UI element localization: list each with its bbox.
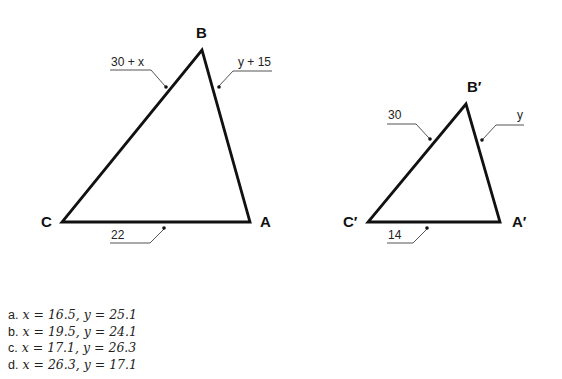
- side-ba-leader: [217, 71, 272, 89]
- choice-x-value: x = 17.1,: [22, 340, 79, 355]
- side-ba-prime-leader: [480, 125, 524, 142]
- vertex-a-prime-label: A′: [512, 213, 527, 230]
- choice-letter: d.: [8, 358, 18, 372]
- side-ca-prime-label: 14: [388, 228, 402, 242]
- choice-letter: c.: [8, 341, 18, 355]
- vertex-b-prime-label: B′: [467, 78, 482, 95]
- choice-c[interactable]: c. x = 17.1, y = 26.3: [8, 340, 137, 357]
- vertex-c-prime-label: C′: [343, 213, 358, 230]
- vertex-a-label: A: [260, 213, 271, 230]
- choice-x-value: x = 16.5,: [22, 307, 79, 322]
- choice-x-value: x = 26.3,: [22, 357, 79, 372]
- choice-y-value: y = 26.3: [83, 340, 136, 355]
- choice-y-value: y = 24.1: [84, 324, 137, 339]
- answer-choices: a. x = 16.5, y = 25.1 b. x = 19.5, y = 2…: [8, 307, 137, 373]
- choice-letter: b.: [8, 325, 18, 339]
- choice-letter: a.: [8, 308, 18, 322]
- side-ba-prime-label: y: [517, 108, 523, 122]
- large-triangle: B C A 30 + x y + 15 22: [41, 24, 272, 243]
- vertex-c-label: C: [41, 213, 52, 230]
- side-ba-label: y + 15: [238, 55, 271, 69]
- choice-b[interactable]: b. x = 19.5, y = 24.1: [8, 324, 137, 341]
- side-cb-label: 30 + x: [111, 55, 144, 69]
- side-cb-prime-leader: [387, 124, 432, 141]
- small-triangle: B′ C′ A′ 30 y 14: [343, 78, 527, 243]
- choice-y-value: y = 17.1: [84, 357, 137, 372]
- choice-d[interactable]: d. x = 26.3, y = 17.1: [8, 357, 137, 374]
- side-cb-leader: [110, 70, 168, 89]
- side-ca-label: 22: [111, 228, 125, 242]
- choice-a[interactable]: a. x = 16.5, y = 25.1: [8, 307, 137, 324]
- similar-triangles-figure: B C A 30 + x y + 15 22 B′ C′ A′: [0, 0, 562, 290]
- vertex-b-label: B: [196, 24, 207, 41]
- choice-y-value: y = 25.1: [84, 307, 137, 322]
- choice-x-value: x = 19.5,: [22, 324, 79, 339]
- side-cb-prime-label: 30: [388, 108, 402, 122]
